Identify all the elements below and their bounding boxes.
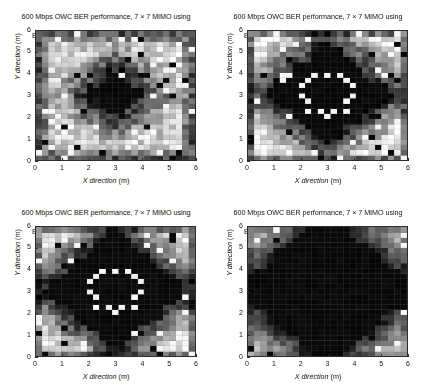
x-tick-label: 4 [347, 164, 361, 171]
figure-canvas: 600 Mbps OWC BER performance, 7 × 7 MIMO… [0, 0, 424, 391]
y-tick-label: 4 [15, 265, 31, 272]
x-axis-label: X direction (m) [0, 176, 212, 185]
x-tick-mark [408, 354, 409, 357]
x-tick-mark [89, 158, 90, 161]
x-tick-label: 3 [109, 164, 123, 171]
x-axis-label-text: X direction [295, 372, 329, 381]
y-tick-label: 5 [15, 243, 31, 250]
y-axis-label-unit: (m) [13, 229, 22, 242]
x-tick-label: 6 [189, 360, 203, 367]
y-tick-label: 2 [15, 309, 31, 316]
heatmap-canvas [248, 31, 407, 160]
x-tick-mark [274, 158, 275, 161]
x-axis-label-unit: (m) [329, 372, 342, 381]
x-tick-mark [381, 354, 382, 357]
x-tick-mark [35, 354, 36, 357]
y-tick-label: 6 [15, 222, 31, 229]
x-tick-mark [89, 354, 90, 357]
x-tick-label: 1 [267, 164, 281, 171]
y-tick-mark [35, 96, 38, 97]
y-tick-mark [247, 248, 250, 249]
y-tick-mark [35, 74, 38, 75]
y-tick-mark [247, 292, 250, 293]
y-tick-label: 4 [227, 265, 243, 272]
x-tick-mark [196, 158, 197, 161]
heatmap-canvas [248, 227, 407, 356]
x-tick-label: 4 [347, 360, 361, 367]
y-tick-label: 0 [227, 157, 243, 164]
y-tick-mark [35, 357, 38, 358]
x-tick-mark [142, 158, 143, 161]
y-tick-mark [35, 226, 38, 227]
x-tick-label: 5 [162, 164, 176, 171]
x-tick-mark [247, 354, 248, 357]
x-tick-mark [354, 354, 355, 357]
x-tick-mark [169, 354, 170, 357]
y-tick-mark [247, 161, 250, 162]
x-tick-mark [35, 158, 36, 161]
x-tick-label: 3 [321, 360, 335, 367]
x-axis-label-unit: (m) [117, 176, 130, 185]
heatmap-axes [35, 30, 196, 161]
y-tick-mark [247, 96, 250, 97]
subplot-panel: 600 Mbps OWC BER performance, 7 × 7 MIMO… [212, 196, 424, 391]
x-tick-label: 2 [294, 360, 308, 367]
panel-title-line1: 600 Mbps OWC BER performance, 7 × 7 MIMO… [234, 208, 403, 217]
x-tick-mark [301, 354, 302, 357]
y-tick-label: 5 [227, 243, 243, 250]
x-tick-mark [62, 354, 63, 357]
x-tick-label: 5 [374, 360, 388, 367]
y-tick-label: 3 [15, 91, 31, 98]
y-tick-label: 4 [227, 69, 243, 76]
y-tick-mark [35, 313, 38, 314]
x-tick-label: 3 [109, 360, 123, 367]
x-axis-label: X direction (m) [0, 372, 212, 381]
y-tick-label: 6 [227, 26, 243, 33]
x-tick-label: 4 [135, 360, 149, 367]
x-tick-mark [328, 354, 329, 357]
y-tick-label: 1 [15, 135, 31, 142]
y-axis-label-unit: (m) [225, 229, 234, 242]
subplot-panel: 600 Mbps OWC BER performance, 7 × 7 MIMO… [0, 196, 212, 391]
x-tick-label: 3 [321, 164, 335, 171]
y-tick-label: 1 [227, 331, 243, 338]
x-tick-label: 1 [55, 360, 69, 367]
y-tick-label: 2 [227, 309, 243, 316]
subplot-panel: 600 Mbps OWC BER performance, 7 × 7 MIMO… [0, 0, 212, 195]
x-tick-mark [381, 158, 382, 161]
y-tick-label: 1 [227, 135, 243, 142]
x-axis-label: X direction (m) [212, 372, 424, 381]
y-tick-mark [247, 226, 250, 227]
x-tick-mark [247, 158, 248, 161]
panel-title-line1: 600 Mbps OWC BER performance, 7 × 7 MIMO… [22, 208, 191, 217]
x-tick-mark [196, 354, 197, 357]
y-tick-label: 5 [227, 47, 243, 54]
y-tick-mark [35, 248, 38, 249]
y-tick-mark [35, 117, 38, 118]
y-tick-label: 3 [227, 287, 243, 294]
y-tick-mark [35, 52, 38, 53]
y-tick-label: 0 [15, 157, 31, 164]
x-tick-label: 1 [55, 164, 69, 171]
y-tick-label: 1 [15, 331, 31, 338]
y-tick-label: 3 [227, 91, 243, 98]
x-axis-label-text: X direction [83, 372, 117, 381]
x-tick-mark [328, 158, 329, 161]
subplot-panel: 600 Mbps OWC BER performance, 7 × 7 MIMO… [212, 0, 424, 195]
y-tick-mark [35, 270, 38, 271]
x-tick-mark [274, 354, 275, 357]
x-tick-mark [169, 158, 170, 161]
y-tick-mark [247, 117, 250, 118]
y-tick-label: 2 [227, 113, 243, 120]
x-tick-label: 5 [374, 164, 388, 171]
heatmap-axes [35, 226, 196, 357]
y-tick-label: 2 [15, 113, 31, 120]
x-tick-mark [116, 158, 117, 161]
x-tick-label: 4 [135, 164, 149, 171]
y-tick-label: 6 [227, 222, 243, 229]
y-tick-mark [247, 357, 250, 358]
y-tick-mark [247, 313, 250, 314]
y-tick-mark [35, 30, 38, 31]
heatmap-axes [247, 30, 408, 161]
x-tick-mark [301, 158, 302, 161]
